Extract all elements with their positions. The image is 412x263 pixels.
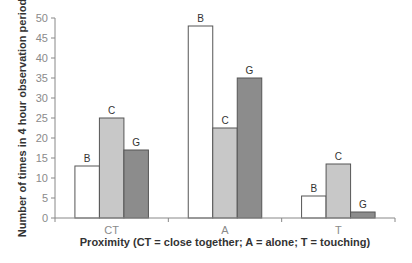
bar-group-t: BCG [302,151,376,218]
bar-a-b [188,26,213,218]
bar-series-label: B [310,183,317,194]
y-axis-title: Number of times in 4 hour observation pe… [16,0,28,237]
x-category-label: A [221,224,229,236]
bar-t-g [351,212,376,218]
bar-t-b [302,196,327,218]
y-tick-label: 40 [36,52,48,64]
bar-series-label: G [132,137,140,148]
y-tick-label: 5 [42,192,48,204]
y-tick-label: 45 [36,32,48,44]
y-tick-label: 25 [36,112,48,124]
bar-ct-b [75,166,100,218]
bars-group: BCGBCGBCG [75,13,375,218]
bar-series-label: C [108,105,115,116]
bar-t-c [326,164,351,218]
bar-series-label: G [246,65,254,76]
y-tick-label: 50 [36,12,48,24]
bar-a-c [213,128,238,218]
x-category-label: T [335,224,342,236]
y-tick-label: 20 [36,132,48,144]
y-tick-label: 30 [36,92,48,104]
bar-series-label: B [197,13,204,24]
y-tick-label: 35 [36,72,48,84]
bar-series-label: C [221,115,228,126]
bar-ct-g [124,150,148,218]
x-category-label: CT [104,224,119,236]
bar-series-label: C [335,151,342,162]
bar-group-ct: BCG [75,105,148,218]
bar-group-a: BCG [188,13,262,218]
bar-series-label: G [359,199,367,210]
x-axis-title: Proximity (CT = close together; A = alon… [80,236,371,248]
y-tick-label: 10 [36,172,48,184]
bar-chart: BCGBCGBCG 05101520253035404550 CTAT Numb… [0,0,412,263]
bar-series-label: B [84,153,91,164]
y-axis: 05101520253035404550 [36,12,55,224]
bar-a-g [237,78,262,218]
y-tick-label: 0 [42,212,48,224]
x-axis: CTAT [55,218,395,236]
bar-ct-c [99,118,124,218]
y-tick-label: 15 [36,152,48,164]
